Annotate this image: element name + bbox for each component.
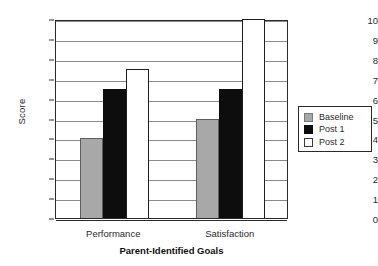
y-tick-label-2: 2: [332, 174, 378, 185]
legend-label: Baseline: [319, 113, 354, 122]
y-tick-label-10: 10: [332, 15, 378, 26]
y-tick-mark-8: [49, 59, 54, 60]
legend-swatch-icon-post-1: [304, 125, 313, 134]
legend-label: Post 2: [319, 138, 345, 147]
chart-legend: BaselinePost 1Post 2: [298, 106, 372, 152]
y-tick-label-6: 6: [332, 94, 378, 105]
legend-item-post-2: Post 2: [304, 136, 371, 149]
y-tick-label-1: 1: [332, 194, 378, 205]
y-tick-mark-6: [49, 99, 54, 100]
y-axis-title: Score: [16, 82, 27, 142]
y-tick-mark-0: [49, 219, 54, 220]
y-tick-mark-4: [49, 139, 54, 140]
y-tick-mark-9: [49, 39, 54, 40]
legend-item-baseline: Baseline: [304, 111, 371, 124]
y-tick-mark-1: [49, 199, 54, 200]
y-tick-label-3: 3: [332, 154, 378, 165]
y-tick-mark-3: [49, 159, 54, 160]
bar-performance-baseline: [80, 138, 103, 218]
bar-satisfaction-post-1: [219, 89, 242, 218]
x-category-label-performance: Performance: [86, 228, 140, 239]
legend-swatch-icon-baseline: [304, 113, 313, 122]
bar-performance-post-2: [126, 69, 149, 218]
y-tick-mark-10: [49, 20, 54, 21]
y-tick-mark-5: [49, 119, 54, 120]
y-tick-label-7: 7: [332, 74, 378, 85]
bar-satisfaction-baseline: [196, 119, 219, 219]
bar-performance-post-1: [103, 89, 126, 218]
x-axis-title: Parent-Identified Goals: [55, 245, 288, 256]
y-tick-label-8: 8: [332, 54, 378, 65]
gridline-0: [56, 220, 287, 221]
bar-satisfaction-post-2: [242, 19, 265, 218]
legend-item-post-1: Post 1: [304, 124, 371, 137]
legend-swatch-icon-post-2: [304, 138, 313, 147]
y-tick-mark-7: [49, 79, 54, 80]
y-tick-label-0: 0: [332, 214, 378, 225]
plot-area: [55, 20, 288, 219]
x-category-label-satisfaction: Satisfaction: [205, 228, 254, 239]
y-tick-label-9: 9: [332, 34, 378, 45]
legend-label: Post 1: [319, 125, 345, 134]
y-tick-mark-2: [49, 179, 54, 180]
bar-chart-figure: Score 012345678910 PerformanceSatisfacti…: [0, 0, 378, 266]
